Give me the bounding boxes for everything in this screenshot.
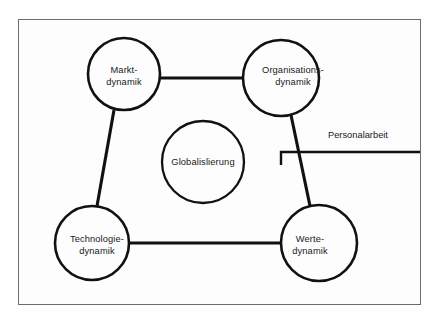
node-circle-markt-dynamik[interactable]	[88, 38, 160, 110]
connector-organisations-to-werte	[291, 115, 310, 206]
connector-markt-to-technologie	[97, 110, 114, 206]
figure-root: Markt- dynamik Organisations- dynamik Te…	[0, 0, 438, 320]
node-circle-organisations-dynamik[interactable]	[243, 40, 319, 116]
node-circle-technologie-dynamik[interactable]	[55, 206, 129, 280]
node-circle-werte-dynamik[interactable]	[281, 205, 357, 281]
node-circle-globalislierung[interactable]	[162, 121, 244, 203]
diagram-canvas	[0, 0, 438, 320]
callout-label-personalarbeit: Personalarbeit	[328, 130, 424, 141]
